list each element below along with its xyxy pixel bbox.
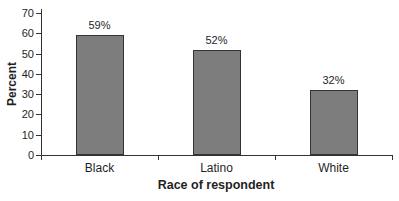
x-category-label: White [294,162,374,174]
bar-value-label: 52% [187,35,247,46]
y-tick-mark [36,135,41,136]
bar [193,50,241,155]
x-axis-title: Race of respondent [116,178,316,192]
y-tick-label: 10 [8,130,34,141]
x-category-label: Latino [177,162,257,174]
y-tick-mark [36,114,41,115]
x-tick-mark [275,156,276,160]
y-tick-mark [36,94,41,95]
y-tick-mark [36,33,41,34]
y-tick-label: 40 [8,69,34,80]
y-tick-label: 50 [8,49,34,60]
y-tick-label: 20 [8,109,34,120]
bar [310,90,358,155]
y-tick-label: 0 [8,150,34,161]
x-category-label: Black [60,162,140,174]
y-axis-line [41,9,42,156]
y-tick-mark [36,74,41,75]
y-tick-label: 60 [8,28,34,39]
bar [76,35,124,155]
y-tick-mark [36,13,41,14]
x-tick-mark [392,156,393,160]
bar-chart: Percent Race of respondent 0102030405060… [0,0,399,201]
bar-value-label: 32% [304,75,364,86]
y-tick-mark [36,54,41,55]
x-tick-mark [41,156,42,160]
x-tick-mark [158,156,159,160]
x-axis-line [41,155,393,156]
y-tick-label: 70 [8,8,34,19]
bar-value-label: 59% [70,20,130,31]
y-tick-label: 30 [8,89,34,100]
